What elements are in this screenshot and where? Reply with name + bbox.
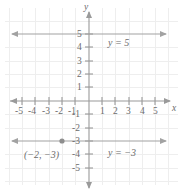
line-label-y-equals-negative-3: y = −3 bbox=[108, 148, 136, 158]
x-tick-label--3: -3 bbox=[42, 107, 50, 117]
x-tick-label--2: -2 bbox=[55, 107, 63, 117]
x-axis-name: x bbox=[172, 104, 176, 114]
y-tick-label-3: 3 bbox=[77, 57, 82, 67]
x-tick-label-1: 1 bbox=[100, 107, 105, 117]
x-tick-label-4: 4 bbox=[140, 107, 145, 117]
y-axis-name: y bbox=[84, 3, 88, 13]
graph-canvas bbox=[0, 0, 184, 193]
plotted-point-marker bbox=[59, 138, 64, 143]
x-axis bbox=[10, 98, 171, 104]
y-tick-label-2: 2 bbox=[77, 70, 82, 80]
y-tick-label--4: -4 bbox=[72, 150, 80, 160]
x-tick-label-5: 5 bbox=[153, 107, 158, 117]
x-tick-label--5: -5 bbox=[15, 107, 23, 117]
y-tick-label-5: 5 bbox=[77, 30, 82, 40]
point-coordinate-label: (−2, −3) bbox=[24, 150, 59, 160]
x-tick-label-3: 3 bbox=[126, 107, 131, 117]
y-axis bbox=[86, 11, 92, 189]
y-tick-label--1: -1 bbox=[72, 110, 80, 120]
y-tick-label-1: 1 bbox=[77, 83, 82, 93]
coordinate-plane-figure: -5 -4 -3 -2 -1 1 2 3 4 5 5 4 3 2 1 -1 -2… bbox=[0, 0, 184, 193]
y-tick-label--5: -5 bbox=[72, 164, 80, 174]
x-tick-label-2: 2 bbox=[113, 107, 118, 117]
y-tick-label--2: -2 bbox=[72, 124, 80, 134]
y-tick-label--3: -3 bbox=[72, 137, 80, 147]
line-label-y-equals-5: y = 5 bbox=[108, 38, 129, 48]
x-tick-label--4: -4 bbox=[28, 107, 36, 117]
y-tick-label-4: 4 bbox=[77, 43, 82, 53]
